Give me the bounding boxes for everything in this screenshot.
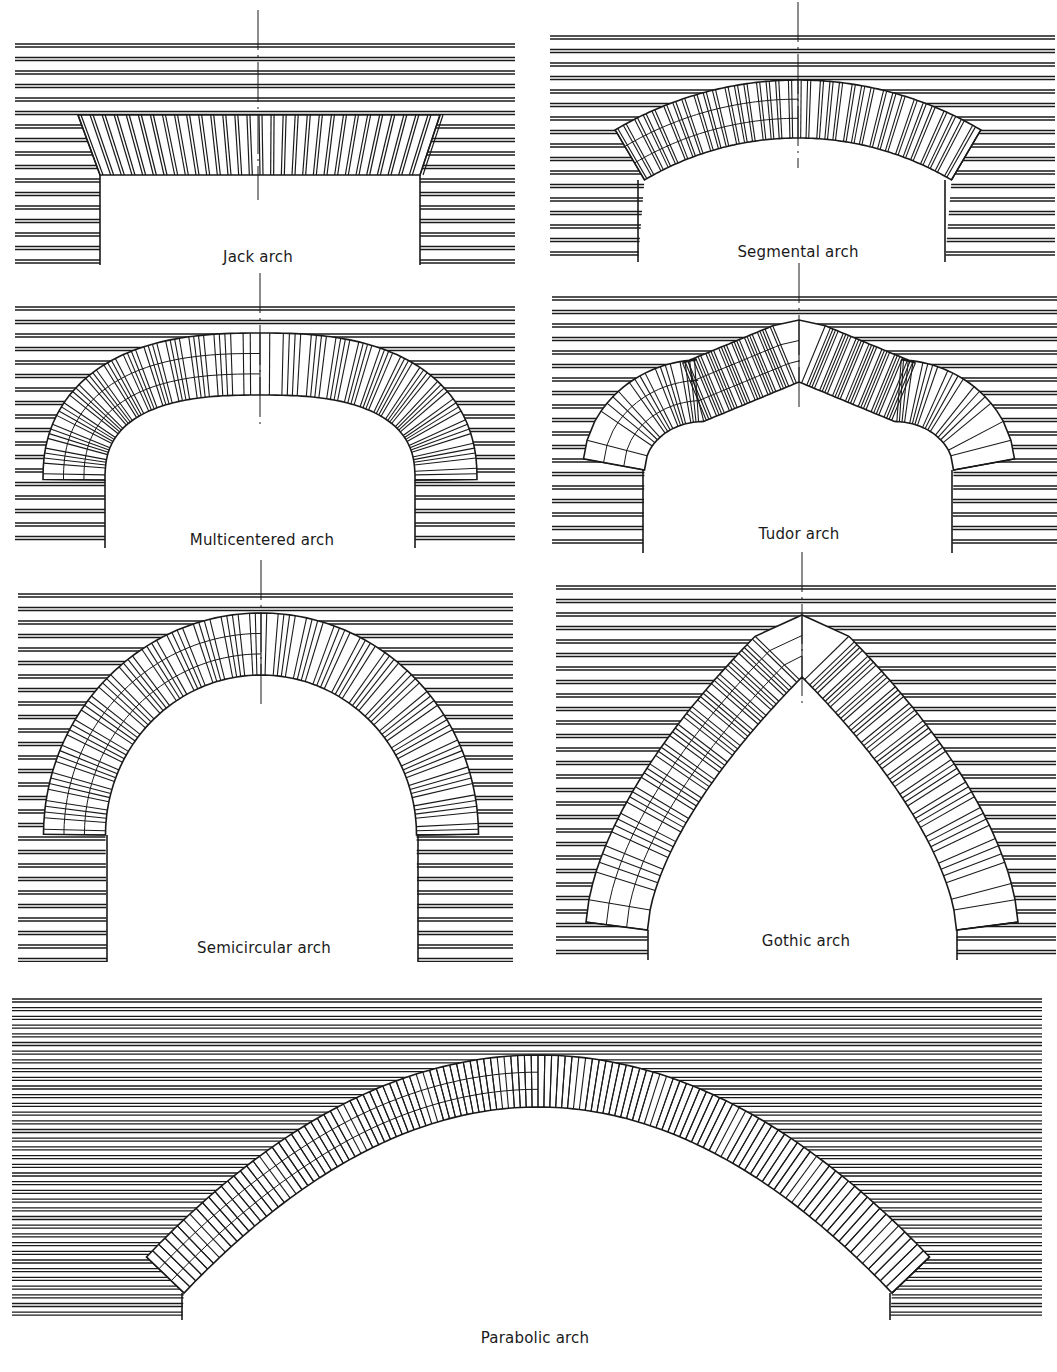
arch-panel-parabolic: [0, 0, 1057, 1372]
brick-arches-figure: Jack archSegmental archMulticentered arc…: [0, 0, 1057, 1372]
parabolic-arch-drawing: [0, 0, 1057, 1372]
parabolic-arch-label: Parabolic arch: [481, 1329, 590, 1347]
